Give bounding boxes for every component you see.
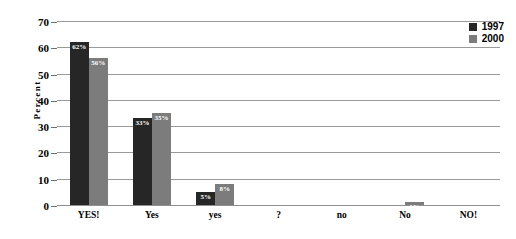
y-tick-label: 20: [38, 147, 49, 159]
bars-group: 62%56%33%35%5%8%1%: [57, 21, 500, 205]
bar-1997-yes: 5%: [196, 192, 215, 205]
x-axis-label: Yes: [145, 210, 159, 220]
y-tick-label: 50: [38, 69, 49, 81]
legend-swatch-2000-icon: [469, 35, 477, 43]
chart-legend: 1997 2000: [469, 22, 504, 44]
legend-label-2000: 2000: [482, 34, 504, 44]
y-tick-label: 40: [38, 95, 49, 107]
bar-chart: Percent 010203040506070 62%56%33%35%5%8%…: [0, 0, 516, 239]
bar-2000-YES!: 56%: [89, 58, 108, 205]
legend-item-1997[interactable]: 1997: [469, 22, 504, 32]
x-axis-label: NO!: [460, 210, 477, 220]
bar-2000-Yes: 35%: [152, 113, 171, 205]
legend-label-1997: 1997: [482, 22, 504, 32]
x-axis-label: yes: [209, 210, 222, 220]
y-tick-label: 30: [38, 121, 49, 133]
y-tick-label: 60: [38, 42, 49, 54]
x-axis-label: No: [399, 210, 411, 220]
y-tick-label: 70: [38, 16, 49, 28]
bar-2000-No: 1%: [405, 202, 424, 205]
legend-swatch-1997-icon: [469, 23, 477, 31]
y-tick-label: 0: [44, 200, 50, 212]
bar-value-label: 8%: [215, 185, 234, 194]
bar-2000-yes: 8%: [215, 184, 234, 205]
bar-1997-Yes: 33%: [133, 118, 152, 205]
legend-item-2000[interactable]: 2000: [469, 34, 504, 44]
gridline: 0: [57, 205, 500, 206]
x-axis-label: YES!: [78, 210, 100, 220]
y-tick-label: 10: [38, 174, 49, 186]
bar-value-label: 62%: [70, 43, 89, 52]
bar-value-label: 35%: [152, 114, 171, 123]
x-axis-labels-group: YES!Yesyes?noNoNO!: [57, 210, 500, 230]
bar-value-label: 5%: [196, 193, 215, 202]
bar-value-label: 56%: [89, 59, 108, 68]
y-tick-mark: [51, 206, 57, 207]
x-axis-label: no: [337, 210, 347, 220]
bar-1997-YES!: 62%: [70, 42, 89, 205]
x-axis-label: ?: [276, 210, 281, 220]
plot-area: 010203040506070 62%56%33%35%5%8%1%: [57, 21, 500, 205]
bar-value-label: 33%: [133, 119, 152, 128]
